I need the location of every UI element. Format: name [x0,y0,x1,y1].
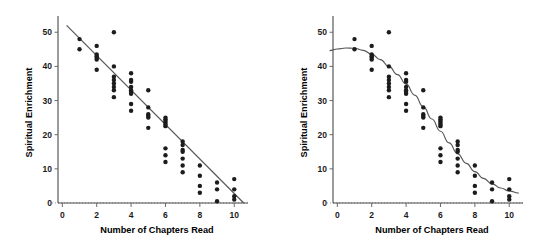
data-point [421,88,425,92]
fit-curve [330,48,519,193]
x-tick-label: 0 [335,210,340,220]
data-point [129,71,133,75]
data-point [507,197,511,201]
x-tick-label: 10 [505,210,515,220]
x-tick-label: 8 [472,210,477,220]
data-point [146,88,150,92]
y-tick-label: 0 [47,198,52,208]
data-point [163,153,167,157]
data-point [387,95,391,99]
y-tick-label: 40 [318,61,328,71]
data-point [352,37,356,41]
data-point [180,150,184,154]
data-point [473,173,477,177]
data-point [198,191,202,195]
data-point [404,92,408,96]
data-point [198,163,202,167]
x-tick-label: 6 [163,210,168,220]
data-point [404,109,408,113]
data-point [95,57,99,61]
data-point [180,143,184,147]
data-point [129,109,133,113]
data-point [232,187,236,191]
fit-line [67,25,244,203]
data-point [180,156,184,160]
y-axis-title: Spiritual Enrichment [299,68,309,158]
data-point [146,105,150,109]
data-point [438,124,442,128]
data-point [507,177,511,181]
data-point [370,44,374,48]
data-point [473,191,477,195]
data-point [370,57,374,61]
data-point [163,146,167,150]
data-point [438,153,442,157]
x-tick-label: 4 [129,210,134,220]
data-point [455,143,459,147]
y-tick-label: 10 [43,164,53,174]
data-point [198,173,202,177]
y-tick-label: 30 [318,96,328,106]
y-tick-label: 0 [322,198,327,208]
x-axis-title: Number of Chapters Read [375,225,488,235]
data-point [421,115,425,119]
data-point [112,30,116,34]
data-point [387,30,391,34]
data-point [455,170,459,174]
data-point [215,180,219,184]
data-point [163,124,167,128]
x-tick-label: 10 [230,210,240,220]
data-point [421,126,425,130]
data-point [404,71,408,75]
x-tick-label: 8 [197,210,202,220]
data-point [112,64,116,68]
y-tick-label: 40 [43,61,53,71]
data-point [215,199,219,203]
data-point [198,184,202,188]
y-tick-label: 50 [43,27,53,37]
y-tick-label: 50 [318,27,328,37]
left-plot-group: 010203040500246810Number of Chapters Rea… [24,16,248,235]
data-point [455,150,459,154]
data-point [112,95,116,99]
data-point [77,47,81,51]
data-point [95,44,99,48]
data-point [473,163,477,167]
data-point [146,126,150,130]
data-point [232,177,236,181]
y-tick-label: 20 [318,130,328,140]
data-point [112,88,116,92]
y-axis-title: Spiritual Enrichment [24,68,34,158]
data-point [455,156,459,160]
left-panel: 010203040500246810Number of Chapters Rea… [0,0,275,244]
x-tick-label: 2 [369,210,374,220]
data-point [352,47,356,51]
x-tick-label: 6 [438,210,443,220]
y-tick-label: 20 [43,130,53,140]
data-point [438,146,442,150]
data-point [129,80,133,84]
data-point [77,37,81,41]
x-tick-label: 0 [60,210,65,220]
data-point [438,160,442,164]
right-panel: 010203040500246810Number of Chapters Rea… [275,0,551,244]
x-tick-label: 2 [94,210,99,220]
data-point [370,68,374,72]
data-point [507,187,511,191]
data-point [490,187,494,191]
left-panel-plot: 010203040500246810Number of Chapters Rea… [0,0,275,244]
data-point [404,80,408,84]
data-point [163,160,167,164]
right-plot-group: 010203040500246810Number of Chapters Rea… [299,16,523,235]
data-point [180,163,184,167]
data-point [146,115,150,119]
data-point [129,92,133,96]
data-point [421,105,425,109]
data-point [232,197,236,201]
x-axis-title: Number of Chapters Read [100,225,213,235]
data-point [180,170,184,174]
data-point [95,68,99,72]
data-point [404,102,408,106]
data-point [215,187,219,191]
x-tick-label: 4 [404,210,409,220]
